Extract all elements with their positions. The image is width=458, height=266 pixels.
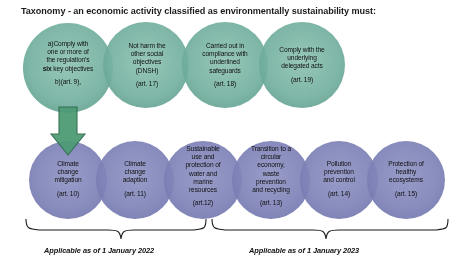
condition-circle-4	[259, 22, 345, 108]
objective-circle-3	[164, 141, 242, 219]
objectives-circle-group	[29, 141, 445, 219]
objective-circle-6	[367, 141, 445, 219]
taxonomy-diagram: Taxonomy - an economic activity classifi…	[0, 0, 458, 266]
conditions-circle-group	[23, 22, 345, 113]
condition-circle-2	[103, 22, 189, 108]
objective-circle-2	[96, 141, 174, 219]
condition-circle-1	[23, 23, 113, 113]
diagram-canvas	[0, 0, 458, 266]
objective-circle-5	[300, 141, 378, 219]
caption-2022: Applicable as of 1 January 2022	[44, 246, 154, 255]
condition-circle-3	[182, 22, 268, 108]
objective-circle-4	[232, 141, 310, 219]
brace-2022	[26, 219, 206, 239]
caption-2023: Applicable as of 1 January 2023	[249, 246, 359, 255]
brace-2023	[212, 219, 448, 239]
